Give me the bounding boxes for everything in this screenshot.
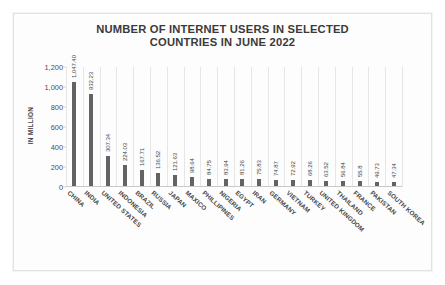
bar-value-label: 932.23 — [87, 72, 94, 90]
bar-slot: 224.03 — [116, 67, 133, 187]
bar — [156, 173, 160, 187]
bar-value-label: 83.94 — [222, 160, 229, 175]
bar-value-label: 98.64 — [188, 158, 195, 173]
bar — [106, 156, 110, 187]
bar-slot: 81.26 — [234, 67, 251, 187]
bar-value-label: 84.75 — [205, 160, 212, 175]
bar-slot: 1,047.40 — [66, 67, 83, 187]
y-axis-title: IN MILLION — [27, 91, 34, 161]
bar-slot: 75.83 — [251, 67, 268, 187]
bar — [140, 170, 144, 187]
bar-value-label: 49.73 — [373, 163, 380, 178]
y-tick-label: 800 — [51, 103, 63, 112]
bar-value-label: 136.52 — [155, 151, 162, 169]
bar — [123, 165, 127, 187]
bar-slot: 47.34 — [385, 67, 402, 187]
y-tick-label: 1,000 — [45, 83, 64, 92]
bar-slot: 74.87 — [268, 67, 285, 187]
bar-value-label: 68.26 — [306, 161, 313, 176]
x-axis-line — [66, 186, 402, 187]
chart-title-line-2: COUNTRIES IN JUNE 2022 — [14, 36, 431, 49]
bar-value-label: 47.34 — [390, 164, 397, 179]
bar-value-label: 224.03 — [121, 143, 128, 161]
y-tick-label: 1,200 — [45, 63, 64, 72]
bar-slot: 98.64 — [184, 67, 201, 187]
bar-value-label: 81.26 — [239, 160, 246, 175]
bar-slot: 83.94 — [217, 67, 234, 187]
bar-slot: 68.26 — [301, 67, 318, 187]
bar-value-label: 307.34 — [104, 134, 111, 152]
bar-slot: 72.92 — [284, 67, 301, 187]
bar-value-label: 1,047.40 — [71, 55, 78, 78]
y-tick-label: 600 — [51, 123, 63, 132]
x-category-label: INDIA — [84, 189, 102, 206]
bar-slot: 307.34 — [100, 67, 117, 187]
bar-value-label: 63.52 — [323, 162, 330, 177]
bar-slot: 136.52 — [150, 67, 167, 187]
bar-value-label: 74.87 — [272, 161, 279, 176]
bar-value-label: 72.92 — [289, 161, 296, 176]
chart-title-line-1: NUMBER OF INTERNET USERS IN SELECTED — [14, 23, 431, 36]
chart-frame: NUMBER OF INTERNET USERS IN SELECTED COU… — [13, 13, 432, 271]
bar-slot: 84.75 — [200, 67, 217, 187]
y-tick-label: 400 — [51, 143, 63, 152]
x-axis-category-labels: CHINAINDIAUNITED STATESINDONESIABRAZILRU… — [66, 189, 402, 259]
bar-value-label: 167.71 — [138, 148, 145, 166]
bar-slot: 121.63 — [167, 67, 184, 187]
gridline — [402, 67, 403, 187]
plot-area: 02004006008001,0001,200 1,047.40932.2330… — [66, 67, 402, 187]
bar-slot: 49.73 — [368, 67, 385, 187]
bar-slot: 56.84 — [335, 67, 352, 187]
bar-slot: 55.8 — [352, 67, 369, 187]
bar — [72, 82, 76, 187]
chart-title: NUMBER OF INTERNET USERS IN SELECTED COU… — [14, 23, 431, 49]
bar-slot: 63.52 — [318, 67, 335, 187]
bar-slot: 932.23 — [83, 67, 100, 187]
bar-value-label: 56.84 — [339, 163, 346, 178]
bar-slot: 167.71 — [133, 67, 150, 187]
y-tick-label: 200 — [51, 163, 63, 172]
bar — [89, 94, 93, 187]
bar-value-label: 121.63 — [171, 153, 178, 171]
bar-value-label: 75.83 — [255, 161, 262, 176]
bar-value-label: 55.8 — [356, 166, 363, 177]
bar-series: 1,047.40932.23307.34224.03167.71136.5212… — [66, 67, 402, 187]
